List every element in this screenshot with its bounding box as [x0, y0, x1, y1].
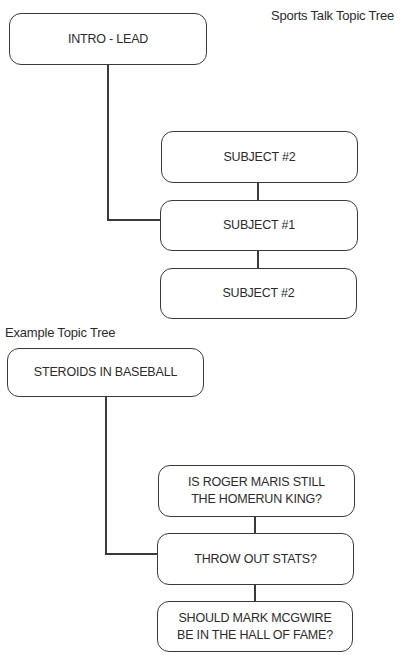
- child-node-subject-1: SUBJECT #1: [160, 200, 358, 251]
- node-label: SUBJECT #2: [222, 285, 294, 302]
- node-label: THROW OUT STATS?: [194, 551, 317, 568]
- node-label: STEROIDS IN BASEBALL: [34, 364, 177, 381]
- child-node-roger-maris: IS ROGER MARIS STILL THE HOMERUN KING?: [158, 465, 355, 517]
- connector-vertical: [254, 585, 256, 601]
- node-label: SHOULD MARK MCGWIRE BE IN THE HALL OF FA…: [177, 610, 333, 644]
- connector-horizontal: [105, 553, 158, 555]
- connector-vertical: [105, 397, 107, 554]
- diagram-title: Example Topic Tree: [5, 325, 115, 340]
- connector-vertical: [107, 65, 109, 220]
- root-node-steroids: STEROIDS IN BASEBALL: [7, 348, 204, 397]
- diagram-title: Sports Talk Topic Tree: [271, 8, 394, 23]
- node-label: INTRO - LEAD: [68, 31, 148, 48]
- connector-vertical: [257, 183, 259, 200]
- connector-vertical: [257, 251, 259, 268]
- child-node-subject-2-top: SUBJECT #2: [161, 131, 358, 183]
- node-label: SUBJECT #1: [223, 217, 295, 234]
- node-label: IS ROGER MARIS STILL THE HOMERUN KING?: [188, 474, 325, 508]
- node-label: SUBJECT #2: [223, 149, 295, 166]
- connector-horizontal: [107, 219, 161, 221]
- child-node-mark-mcgwire: SHOULD MARK MCGWIRE BE IN THE HALL OF FA…: [157, 601, 353, 652]
- root-node-intro-lead: INTRO - LEAD: [9, 13, 207, 65]
- child-node-subject-2-bottom: SUBJECT #2: [160, 268, 357, 319]
- child-node-throw-out-stats: THROW OUT STATS?: [157, 533, 354, 585]
- connector-vertical: [254, 517, 256, 533]
